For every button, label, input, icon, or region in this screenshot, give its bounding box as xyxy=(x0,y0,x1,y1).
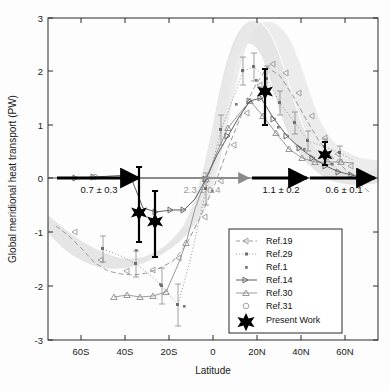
xtick-60N: 60N xyxy=(336,346,354,357)
xtick-40N: 40N xyxy=(292,346,310,357)
y-axis-title: Global meridional heat transport (PW) xyxy=(7,95,18,263)
xtick-40S: 40S xyxy=(117,346,134,357)
legend-label-ref1: Ref.1 xyxy=(266,262,288,272)
ytick-2: 2 xyxy=(38,66,43,77)
xtick-20S: 20S xyxy=(161,346,178,357)
xtick-20N: 20N xyxy=(248,346,266,357)
ytick-neg2: -2 xyxy=(35,281,43,292)
square-icon xyxy=(245,253,248,256)
x-axis-title: Latitude xyxy=(195,365,231,376)
dot-icon xyxy=(245,266,248,269)
ytick-0: 0 xyxy=(38,173,43,184)
ytick-3: 3 xyxy=(38,13,43,24)
heat-transport-chart: 0.7 ± 0.3 2.3 ± 0.4 1.1 ± 0.2 0.6 ± 0.1 xyxy=(0,0,390,391)
xtick-60S: 60S xyxy=(73,346,90,357)
ytick-1: 1 xyxy=(38,120,43,131)
annotation-0-6: 0.6 ± 0.1 xyxy=(326,184,363,195)
annotation-0-7: 0.7 ± 0.3 xyxy=(81,184,118,195)
legend-label-present-work: Present Work xyxy=(266,315,321,325)
annotation-2-3: 2.3 ± 0.4 xyxy=(184,184,221,195)
legend-label-ref30: Ref.30 xyxy=(266,288,293,298)
annotation-1-1: 1.1 ± 0.2 xyxy=(263,184,300,195)
legend-label-ref14: Ref.14 xyxy=(266,275,293,285)
legend: Ref.19 Ref.29 Ref.1 Ref.14 Ref.30 xyxy=(229,229,342,333)
ytick-neg3: -3 xyxy=(35,335,43,346)
legend-label-ref29: Ref.29 xyxy=(266,249,293,259)
ytick-neg1: -1 xyxy=(35,227,43,238)
legend-label-ref19: Ref.19 xyxy=(266,236,293,246)
xtick-0: 0 xyxy=(210,346,215,357)
legend-label-ref31: Ref.31 xyxy=(266,301,293,311)
figure-container: 0.7 ± 0.3 2.3 ± 0.4 1.1 ± 0.2 0.6 ± 0.1 xyxy=(0,0,390,391)
